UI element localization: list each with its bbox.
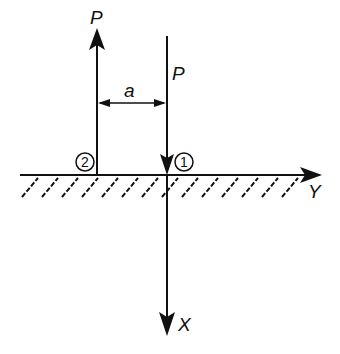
ground-hatching (22, 178, 298, 197)
dimension-arrow-right-icon (154, 99, 166, 107)
force-diagram: P P X Y a 2 1 (0, 0, 340, 354)
diagram-canvas: P P X Y a 2 1 (0, 0, 340, 354)
force-p-downward (160, 36, 174, 175)
dimension-label: a (124, 80, 135, 101)
y-axis-label: Y (308, 181, 322, 202)
x-axis (159, 175, 175, 336)
force-label-right: P (172, 63, 185, 84)
x-axis-label: X (177, 314, 192, 335)
point-marker-2: 2 (76, 153, 94, 171)
dimension-arrow-left-icon (98, 99, 110, 107)
point-label-2: 2 (81, 154, 89, 170)
force-label-left: P (90, 7, 103, 28)
point-label-1: 1 (180, 154, 188, 170)
point-marker-1: 1 (175, 153, 193, 171)
